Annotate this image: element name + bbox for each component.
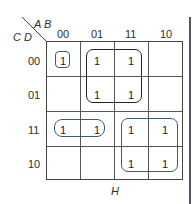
right-border-line [189,17,191,204]
col-header-00: 00 [57,29,69,40]
group-quad-01-11 [86,49,142,103]
map-caption: H [111,186,119,197]
col-variable-label: A B [34,19,51,30]
group-quad-bottom-right [121,118,178,172]
row-header-11: 11 [28,125,39,136]
col-header-01: 01 [91,29,103,40]
group-single-00-00 [55,51,70,68]
row-header-01: 01 [28,90,40,101]
group-pair-row-11 [54,119,105,137]
row-header-00: 00 [28,56,40,67]
col-header-11: 11 [125,29,136,40]
grid-divider [47,111,182,112]
row-variable-label: C D [13,32,32,43]
row-header-10: 10 [28,159,40,170]
col-header-10: 10 [160,29,172,40]
